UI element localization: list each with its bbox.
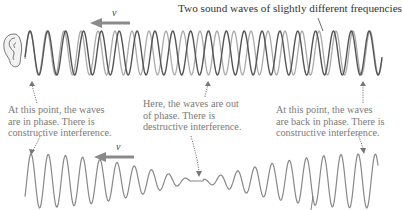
pointer-left-top [32,84,37,103]
beat-leader-line [311,196,313,210]
note-line: of phase. There is [143,110,241,122]
beat-waveform [25,154,378,208]
pointer-middle-bottom [191,136,199,172]
arrow-left-icon [90,18,130,28]
note-right-constructive: At this point, the waves are back in pha… [276,104,384,139]
velocity-label-bottom: v [116,141,120,152]
ear-icon [4,34,22,67]
figure-caption: Two sound waves of slightly different fr… [178,2,402,14]
pointer-right-bottom-head [360,148,366,154]
pointer-middle-bottom-head [196,171,202,177]
note-line: are in phase. There is [8,116,112,128]
note-line: destructive interference. [143,121,241,133]
note-line: are back in phase. There is [276,116,384,128]
note-line: Here, the waves are out [143,98,241,110]
note-left-constructive: At this point, the waves are in phase. T… [8,104,112,139]
pointer-middle-top-head [205,81,211,86]
pointer-right-top-head [360,81,366,86]
note-middle-destructive: Here, the waves are out of phase. There … [143,98,241,133]
note-line: constructive interference. [276,127,384,139]
note-line: At this point, the waves [276,104,384,116]
note-line: constructive interference. [8,127,112,139]
note-line: At this point, the waves [8,104,112,116]
caption-leader-line [318,18,323,31]
velocity-label-top: v [112,7,116,18]
pointer-left-top-head [29,81,35,86]
